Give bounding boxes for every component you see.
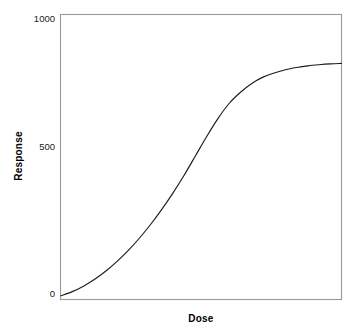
dose-response-chart: 1000 500 0 Response Dose <box>0 0 361 332</box>
y-axis-title: Response <box>13 131 24 181</box>
chart-container: 1000 500 0 Response Dose <box>0 0 361 332</box>
y-axis-tick-0: 0 <box>50 288 55 299</box>
y-axis-tick-500: 500 <box>39 141 55 152</box>
x-axis-title: Dose <box>188 313 213 324</box>
y-axis-tick-1000: 1000 <box>34 13 55 24</box>
plot-frame <box>61 15 342 300</box>
